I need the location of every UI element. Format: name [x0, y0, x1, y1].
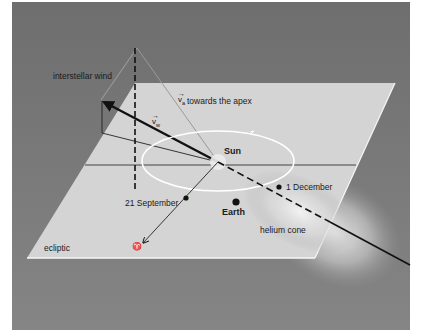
ecliptic-label: ecliptic [44, 244, 70, 253]
point-21-september [183, 195, 188, 200]
21-september-label: 21 September [125, 199, 178, 208]
wind-velocity-label: →vw [152, 118, 160, 128]
earth-label: Earth [222, 208, 245, 217]
point-1-december [276, 184, 281, 189]
1-december-label: 1 December [286, 183, 332, 192]
diagram-canvas [0, 0, 421, 333]
helium-cone-label: helium cone [260, 226, 306, 235]
apex-direction-label: towards the apex [187, 97, 252, 106]
apex-velocity-subscript: a [182, 100, 185, 106]
sun-label: Sun [224, 147, 241, 156]
vernal-equinox-icon: ♈ [132, 243, 142, 251]
interstellar-wind-label: interstellar wind [53, 72, 112, 81]
wind-velocity-subscript: w [156, 122, 160, 128]
diagram-figure: interstellar wind →va towards the apex →… [0, 0, 421, 333]
apex-velocity-label: →va [178, 96, 185, 106]
vector-arrow-icon: → [152, 112, 159, 119]
earth [232, 198, 239, 205]
vector-arrow-icon: → [178, 90, 185, 97]
